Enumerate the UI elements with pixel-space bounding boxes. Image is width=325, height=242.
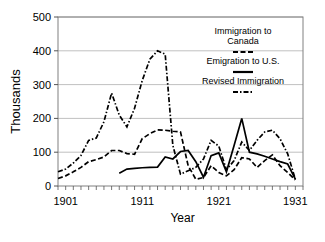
xtick-label-1931: 1931 [283, 195, 307, 207]
ytick-label-400: 400 [33, 45, 51, 57]
xtick-label-1921: 1921 [207, 195, 231, 207]
legend-label-immigration-to-canada-line2: Canada [227, 36, 259, 46]
xtick-label-1911: 1911 [130, 195, 154, 207]
legend-label-immigration-to-canada: Immigration to [214, 26, 271, 36]
ytick-label-500: 500 [33, 11, 51, 23]
immigration-emigration-chart: 01002003004005001901191119211931YearThou… [0, 0, 325, 242]
ytick-label-0: 0 [45, 180, 51, 192]
ytick-label-200: 200 [33, 112, 51, 124]
ytick-label-300: 300 [33, 79, 51, 91]
y-axis-label: Thousands [8, 69, 23, 134]
xtick-label-1901: 1901 [53, 195, 77, 207]
ytick-label-100: 100 [33, 146, 51, 158]
chart-canvas: 01002003004005001901191119211931YearThou… [0, 0, 325, 242]
x-axis-label: Year [170, 211, 194, 225]
legend-label-emigration-to-us: Emigration to U.S. [206, 56, 279, 66]
legend-label-revised-immigration: Revised Immigration [202, 76, 284, 86]
